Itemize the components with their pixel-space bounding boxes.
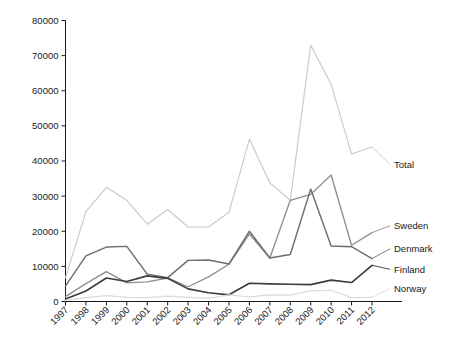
axis-lines: [66, 21, 403, 302]
x-tick-label: 2009: [293, 304, 316, 327]
leader-line-total: [372, 147, 390, 164]
axes: [66, 21, 403, 302]
y-tick-label: 40000: [32, 155, 58, 166]
x-tick-label: 1998: [68, 304, 91, 327]
x-tick-label: 2012: [354, 304, 377, 327]
x-tick-label: 2001: [129, 304, 152, 327]
x-tick-label: 2007: [252, 304, 275, 327]
x-tick-label: 2004: [191, 304, 214, 327]
y-tick-label: 20000: [32, 226, 58, 237]
x-tick-label: 1997: [48, 304, 71, 327]
x-tick-label: 2003: [170, 304, 193, 327]
leader-line-denmark: [372, 249, 390, 259]
series-label-total: Total: [394, 159, 414, 170]
y-tick-label: 50000: [32, 120, 58, 131]
x-tick-label: 2008: [272, 304, 295, 327]
y-tick-label: 80000: [32, 15, 58, 26]
series-line-denmark: [66, 189, 373, 286]
series-label-sweden: Sweden: [394, 220, 428, 231]
leader-line-sweden: [372, 226, 390, 233]
series-line-total: [66, 45, 373, 278]
line-chart: 0100002000030000400005000060000700008000…: [0, 0, 452, 348]
series-label-denmark: Denmark: [394, 243, 433, 254]
y-tick-label: 30000: [32, 191, 58, 202]
x-tick-label: 2002: [150, 304, 173, 327]
y-axis-ticks: 0100002000030000400005000060000700008000…: [32, 15, 65, 307]
y-tick-label: 60000: [32, 85, 58, 96]
leader-line-finland: [372, 265, 390, 269]
data-series-group: [66, 45, 373, 300]
x-tick-label: 2010: [313, 304, 336, 327]
x-tick-label: 2005: [211, 304, 234, 327]
x-tick-label: 2006: [232, 304, 255, 327]
y-tick-label: 70000: [32, 50, 58, 61]
series-line-norway: [66, 290, 373, 300]
y-tick-label: 10000: [32, 261, 58, 272]
x-tick-label: 1999: [89, 304, 112, 327]
leader-line-norway: [372, 289, 390, 297]
x-tick-label: 2000: [109, 304, 132, 327]
series-label-norway: Norway: [394, 283, 426, 294]
x-axis-ticks: 1997199819992000200120022003200420052006…: [48, 302, 377, 327]
y-tick-label: 0: [53, 296, 58, 307]
series-labels-group: TotalSwedenDenmarkFinlandNorway: [372, 147, 433, 297]
chart-canvas: 0100002000030000400005000060000700008000…: [0, 0, 452, 348]
series-label-finland: Finland: [394, 264, 425, 275]
x-tick-label: 2011: [334, 304, 356, 326]
